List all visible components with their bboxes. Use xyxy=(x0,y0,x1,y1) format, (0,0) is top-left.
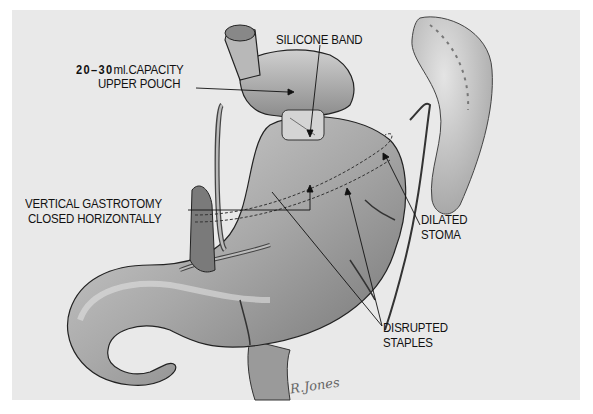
pouch-capacity-value: 20–30 xyxy=(76,63,114,77)
silicone-band xyxy=(282,110,324,140)
label-upper-pouch: UPPER POUCH xyxy=(98,78,180,91)
label-closed-horizontally: CLOSED HORIZONTALLY xyxy=(28,213,161,226)
label-dilated: DILATED xyxy=(421,214,467,227)
label-upper-pouch-capacity: 20–30ml.CAPACITY xyxy=(76,64,184,77)
label-stoma: STOMA xyxy=(421,229,461,242)
label-vertical-gastrotomy: VERTICAL GASTROTOMY xyxy=(25,198,162,211)
duodenum-shape xyxy=(248,340,290,400)
pouch-capacity-unit: ml.CAPACITY xyxy=(114,63,184,77)
label-disrupted: DISRUPTED xyxy=(383,322,448,335)
spleen-shape xyxy=(412,17,492,214)
label-staples: STAPLES xyxy=(383,337,433,350)
stomach-body xyxy=(68,117,406,386)
label-silicone-band: SILICONE BAND xyxy=(276,34,362,47)
